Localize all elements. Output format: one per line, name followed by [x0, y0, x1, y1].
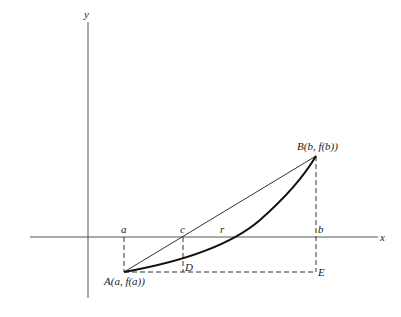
x-axis-label: x	[379, 231, 385, 243]
label-r: r	[220, 223, 225, 235]
y-axis-label: y	[83, 8, 89, 20]
secant-chord-AB	[124, 156, 316, 272]
label-c: c	[180, 223, 185, 235]
label-b: b	[318, 223, 324, 235]
label-E: E	[317, 266, 325, 278]
label-point-A: A(a, f(a))	[103, 275, 145, 288]
label-a: a	[121, 223, 127, 235]
diagram: y x a c r b D E A(a, f(a)) B(b, f(b))	[0, 0, 401, 317]
label-D: D	[184, 261, 193, 273]
label-point-B: B(b, f(b))	[297, 140, 338, 153]
